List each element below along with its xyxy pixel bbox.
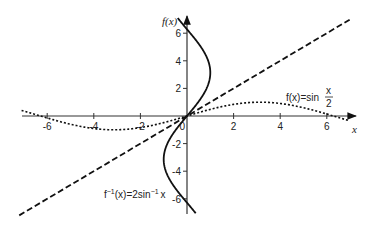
y-tick-label: 2 [175,83,181,94]
inverse-label-x: x [161,189,166,200]
y-tick-label: 4 [175,56,181,67]
inverse-label-mid: (x)=2sin [115,189,151,200]
y-axis-label: f(x) [162,15,178,28]
inverse-label-sup2: −1 [151,188,159,195]
x-axis-label: x [351,123,357,135]
y-tick-label: -4 [172,166,181,177]
inverse-label-sup1: −1 [107,188,115,195]
x-tick-label: -6 [43,121,52,132]
x-tick-label: 2 [231,121,237,132]
sin-label-denominator: 2 [326,98,332,109]
x-tick-label: 6 [324,121,330,132]
inverse-label: f−1(x)=2sin−1x [104,188,166,200]
y-tick-label: -2 [172,139,181,150]
function-plot: -6-4-2246 -6-4-22460 f(x) x f(x)=sin x 2… [0,0,376,225]
y-tick-label: 6 [175,28,181,39]
x-tick-label: 4 [277,121,283,132]
x-tick-label: -4 [89,121,98,132]
sin-label-numerator: x [326,85,331,96]
sin-label-prefix: f(x)=sin [286,92,319,103]
